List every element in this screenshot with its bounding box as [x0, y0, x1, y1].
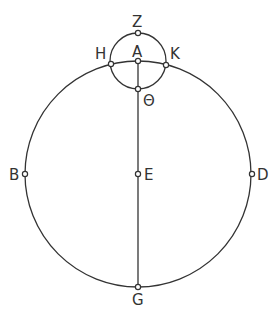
label-K: K	[170, 45, 181, 63]
point-Z	[135, 30, 140, 35]
label-D: D	[257, 166, 269, 184]
point-G	[135, 284, 140, 289]
label-H: H	[95, 45, 106, 63]
point-B	[22, 171, 27, 176]
label-E: E	[144, 166, 153, 184]
point-D	[249, 171, 254, 176]
geometric-diagram: Z A H K Θ B E D G	[0, 0, 276, 319]
point-Theta	[135, 86, 140, 91]
label-A: A	[132, 43, 143, 61]
label-B: B	[9, 166, 19, 184]
point-H	[108, 61, 113, 66]
label-G: G	[132, 291, 144, 309]
label-Z: Z	[132, 13, 142, 31]
point-E	[135, 171, 140, 176]
point-K	[163, 62, 168, 67]
label-Theta: Θ	[143, 92, 155, 110]
